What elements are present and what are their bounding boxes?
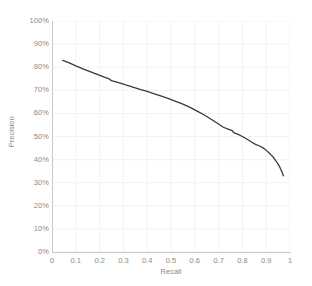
x-axis-tick-labels: 00.10.20.30.40.50.60.70.80.91	[0, 0, 312, 286]
y-axis-title: Precision	[8, 102, 16, 162]
x-axis-tick-label: 0.4	[135, 257, 159, 265]
x-axis-tick-label: 0.7	[207, 257, 231, 265]
precision-recall-chart: 0%10%20%30%40%50%60%70%80%90%100% 00.10.…	[0, 0, 312, 286]
x-axis-tick-label: 0.2	[88, 257, 112, 265]
x-axis-tick-label: 0.5	[159, 257, 183, 265]
x-axis-title: Recall	[52, 268, 290, 276]
x-axis-tick-label: 1	[278, 257, 302, 265]
x-axis-tick-label: 0.8	[230, 257, 254, 265]
x-axis-tick-label: 0.9	[254, 257, 278, 265]
x-axis-tick-label: 0.3	[111, 257, 135, 265]
x-axis-tick-label: 0	[40, 257, 64, 265]
x-axis-tick-label: 0.1	[64, 257, 88, 265]
x-axis-tick-label: 0.6	[183, 257, 207, 265]
